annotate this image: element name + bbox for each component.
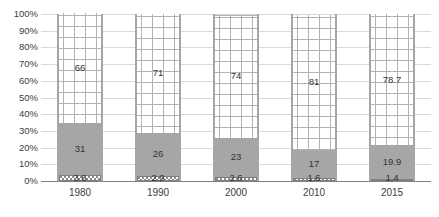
y-axis-tick-label: 100%: [2, 9, 38, 19]
bar-group[interactable]: 3.63166: [57, 14, 103, 181]
bar-stack[interactable]: [213, 14, 259, 181]
bar-segment-middle[interactable]: [59, 123, 101, 175]
bar-segment-middle[interactable]: [215, 138, 257, 176]
bar-segment-bottom[interactable]: [59, 175, 101, 181]
bar-segment-top[interactable]: [137, 14, 179, 133]
x-axis-tick-label: 1990: [128, 186, 188, 199]
stacked-bar-chart: 100%90%80%70%60%50%40%30%20%10%0% 3.6316…: [0, 0, 439, 217]
bar-segment-middle[interactable]: [137, 133, 179, 176]
plot-area: 3.631662.926712.623741.617811.419.978.7: [41, 14, 431, 181]
x-axis-tick-label: 2015: [362, 186, 422, 199]
x-axis-tick-label: 2010: [284, 186, 344, 199]
y-axis-tick-label: 20%: [2, 143, 38, 153]
x-axis: 19801990200020102015: [41, 186, 431, 206]
y-axis-tick-label: 30%: [2, 126, 38, 136]
bar-segment-top[interactable]: [293, 15, 335, 150]
y-axis-tick-label: 40%: [2, 109, 38, 119]
bar-segment-bottom[interactable]: [137, 176, 179, 181]
y-axis-tick-label: 0%: [2, 176, 38, 186]
bar-stack[interactable]: [369, 14, 415, 181]
bar-stack[interactable]: [135, 14, 181, 181]
bar-segment-bottom[interactable]: [371, 179, 413, 181]
y-axis-tick-label: 80%: [2, 42, 38, 52]
bar-segment-middle[interactable]: [293, 150, 335, 178]
axis-baseline: [41, 181, 431, 182]
chart-title: [0, 0, 439, 5]
y-axis-tick-label: 90%: [2, 26, 38, 36]
bar-stack[interactable]: [291, 14, 337, 181]
y-axis-tick-label: 70%: [2, 59, 38, 69]
bar-segment-bottom[interactable]: [293, 178, 335, 181]
bar-segment-top[interactable]: [215, 15, 257, 139]
y-axis-tick-label: 50%: [2, 93, 38, 103]
y-axis-tick-label: 10%: [2, 159, 38, 169]
bar-segment-bottom[interactable]: [215, 177, 257, 181]
y-axis: 100%90%80%70%60%50%40%30%20%10%0%: [0, 14, 38, 181]
bar-group[interactable]: 2.92671: [135, 14, 181, 181]
bar-group[interactable]: 1.419.978.7: [369, 14, 415, 181]
bar-stack[interactable]: [57, 14, 103, 181]
y-axis-tick-label: 60%: [2, 76, 38, 86]
bar-segment-top[interactable]: [59, 13, 101, 123]
x-axis-tick-label: 1980: [50, 186, 110, 199]
x-axis-tick-label: 2000: [206, 186, 266, 199]
bar-segment-middle[interactable]: [371, 145, 413, 178]
bar-segment-top[interactable]: [371, 14, 413, 145]
bar-group[interactable]: 1.61781: [291, 14, 337, 181]
bar-group[interactable]: 2.62374: [213, 14, 259, 181]
